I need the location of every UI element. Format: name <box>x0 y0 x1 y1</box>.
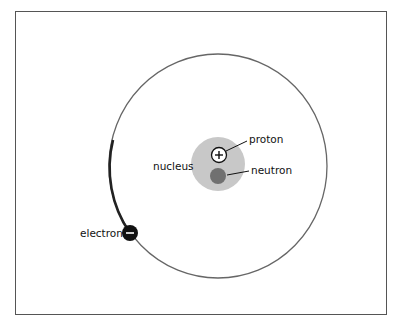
nucleus-label: nucleus <box>153 160 194 172</box>
proton-label: proton <box>249 133 283 145</box>
electron-label: electron <box>80 227 123 239</box>
atom-diagram <box>0 0 401 327</box>
neutron <box>210 168 226 184</box>
electron-motion-trail <box>110 140 130 233</box>
neutron-label: neutron <box>251 164 292 176</box>
